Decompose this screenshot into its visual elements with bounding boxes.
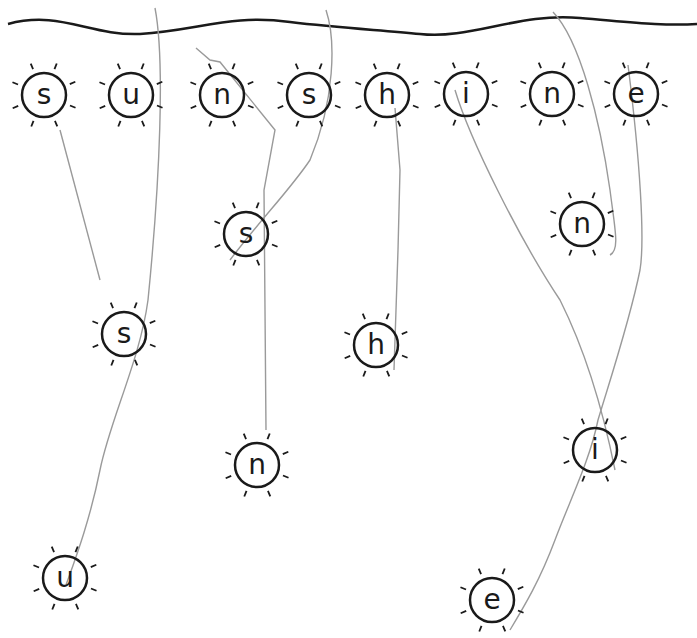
letter-text: s [117,317,132,350]
sun-letter-n: n [520,62,583,125]
sun-ray [135,360,137,366]
worksheet: sunshinesnshinue [0,0,697,638]
sun-ray [582,419,584,425]
sun-ray [434,81,440,83]
letter-text: e [627,77,644,110]
sun-ray [91,565,97,567]
sun-ray [267,433,269,439]
sun-ray [248,82,254,84]
sun-ray [460,587,466,589]
sun-letter-n: n [550,192,613,255]
sun-ray [225,452,231,454]
sun-ray [134,302,136,308]
sun-ray [70,105,76,107]
sun-ray [244,491,246,497]
letter-text: i [462,77,470,110]
sun-ray [233,203,235,209]
sun-ray [492,81,498,83]
sun-ray [503,626,505,632]
sun-ray [93,345,99,347]
sun-letter-n: n [225,433,288,496]
sun-ray [52,604,54,610]
sun-ray [118,121,120,127]
sun-ray [435,105,441,107]
letter-text: s [37,78,52,111]
sun-ray [215,245,221,247]
sun-ray [453,120,455,126]
sun-ray [569,193,571,199]
sun-ray [608,234,614,236]
sun-ray [34,589,40,591]
sun-ray [55,121,57,127]
sun-ray [520,81,526,83]
sun-ray [272,221,278,223]
sun-letter-i: i [434,62,497,125]
sun-ray [374,64,376,70]
sun-ray [477,120,479,126]
sun-ray [413,82,419,84]
letter-text: n [573,207,591,240]
letter-text: n [543,77,561,110]
sun-ray [70,82,76,84]
sun-ray [593,250,595,256]
sun-ray [91,588,97,590]
letter-text: n [213,78,231,111]
sun-ray [578,81,584,83]
sun-ray [518,610,524,612]
sun-ray [402,332,408,334]
sun-ray [150,321,156,323]
sun-ray [662,104,668,106]
sun-ray [283,452,289,454]
sun-ray [52,547,54,553]
sun-ray [569,250,571,256]
sun-ray [150,344,156,346]
sun-ray [209,121,211,127]
sun-ray [157,82,163,84]
letter-text: e [483,583,500,616]
sun-ray [606,476,608,482]
sun-ray [344,332,350,334]
sun-ray [646,62,648,68]
sun-ray [12,82,18,84]
sun-ray [521,105,527,107]
sun-ray [479,626,481,632]
sun-ray [31,64,33,70]
sun-ray [605,105,611,107]
sun-ray [214,221,220,223]
sun-ray [386,313,388,319]
sun-ray [363,314,365,320]
sun-ray [335,82,341,84]
sun-letter-h: h [355,63,418,126]
sun-ray [397,63,399,69]
sun-ray [296,64,298,70]
sun-ray [283,475,289,477]
sun-ray [100,106,106,108]
sun-ray [374,121,376,127]
sun-ray [564,461,570,463]
sun-ray [387,371,389,377]
sun-ray [562,62,564,68]
sun-ray [539,63,541,69]
sun-ray [232,63,234,69]
sun-ray [296,121,298,127]
sun-ray [402,355,408,357]
sun-ray [551,235,557,237]
sun-ray [621,460,627,462]
sun-letter-s: s [12,63,75,126]
sun-ray [413,105,419,107]
sun-ray [550,211,556,213]
sun-letter-u: u [33,546,96,609]
letter-text: n [248,448,266,481]
sun-ray [502,568,504,574]
sun-ray [33,565,39,567]
sun-ray [592,192,594,198]
sun-letter-h: h [344,313,407,376]
sun-ray [244,434,246,440]
sun-ray [363,371,365,377]
letter-text: s [302,78,317,111]
sun-ray [582,476,584,482]
letter-text: u [122,78,140,111]
sun-ray [54,63,56,69]
sun-ray [518,587,524,589]
drawing-canvas: sunshinesnshinue [0,0,697,638]
